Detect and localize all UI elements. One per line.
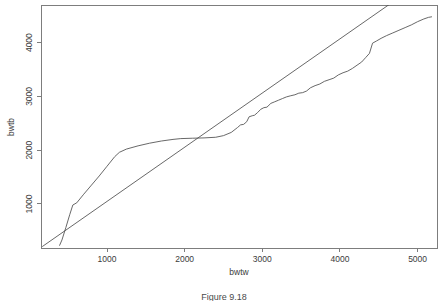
x-axis: 10002000300040005000 — [98, 248, 428, 264]
figure-container: 10002000300040005000 1000200030004000 bw… — [0, 0, 447, 301]
series-reference-line — [43, 0, 437, 246]
data-series-group — [43, 0, 437, 246]
y-tick-label: 2000 — [24, 140, 34, 159]
x-tick-label: 5000 — [408, 254, 427, 264]
x-tick-label: 2000 — [175, 254, 194, 264]
y-tick-label: 1000 — [24, 194, 34, 213]
x-tick-label: 1000 — [98, 254, 117, 264]
y-tick-label: 4000 — [24, 33, 34, 52]
plot-canvas: 10002000300040005000 1000200030004000 bw… — [0, 0, 447, 301]
figure-caption: Figure 9.18 — [201, 292, 247, 301]
x-tick-label: 4000 — [330, 254, 349, 264]
series-empirical-curve — [60, 17, 432, 245]
x-tick-label: 3000 — [253, 254, 272, 264]
y-tick-label: 3000 — [24, 87, 34, 106]
y-axis: 1000200030004000 — [24, 33, 41, 213]
y-axis-title: bwtb — [6, 118, 16, 136]
x-axis-title: bwtw — [229, 267, 249, 277]
